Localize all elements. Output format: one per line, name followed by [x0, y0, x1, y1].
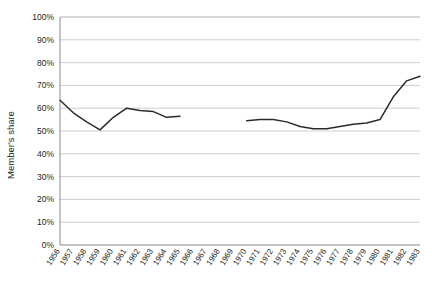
- x-tick-label: 1983: [405, 247, 422, 267]
- y-tick-label: 70%: [37, 80, 54, 90]
- series-line-member-s-share: [247, 76, 420, 128]
- series-group: [60, 76, 420, 130]
- y-tick-label: 60%: [37, 103, 54, 113]
- y-tick-label: 10%: [37, 217, 54, 227]
- y-axis-tick-labels: 0%10%20%30%40%50%60%70%80%90%100%: [32, 12, 54, 250]
- y-tick-label: 20%: [37, 194, 54, 204]
- y-tick-label: 90%: [37, 35, 54, 45]
- y-tick-label: 100%: [32, 12, 54, 22]
- y-tick-label: 30%: [37, 172, 54, 182]
- y-tick-label: 80%: [37, 58, 54, 68]
- x-axis-tick-labels: 1956195719581959196019611962196319641965…: [45, 247, 422, 267]
- y-tick-label: 50%: [37, 126, 54, 136]
- y-axis-title: Member's share: [5, 111, 16, 179]
- y-tick-label: 40%: [37, 149, 54, 159]
- chart-container: 0%10%20%30%40%50%60%70%80%90%100% 195619…: [0, 0, 434, 281]
- series-line-member-s-share: [60, 100, 180, 130]
- members-share-line-chart: 0%10%20%30%40%50%60%70%80%90%100% 195619…: [0, 0, 434, 281]
- gridlines-group: [60, 17, 420, 245]
